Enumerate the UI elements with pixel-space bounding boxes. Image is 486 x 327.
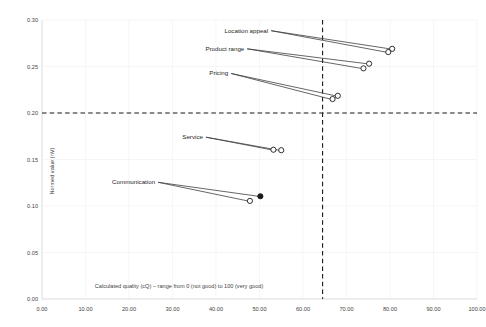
point-label: Pricing xyxy=(209,69,228,76)
data-marker-open xyxy=(247,198,252,203)
y-tick-label: 0.00 xyxy=(27,296,38,302)
y-axis-title: Normed value (nV) xyxy=(49,148,55,195)
x-tick-label: 10.00 xyxy=(79,306,93,312)
x-tick-label: 30.00 xyxy=(166,306,180,312)
point-label: Service xyxy=(182,133,203,140)
data-marker-open xyxy=(335,93,340,98)
data-marker-second xyxy=(258,194,263,199)
x-tick-label: 100.00 xyxy=(468,306,485,312)
x-tick-label: 60.00 xyxy=(296,306,310,312)
y-tick-label: 0.25 xyxy=(27,64,38,70)
data-marker-second xyxy=(386,49,391,54)
y-tick-label: 0.10 xyxy=(27,203,38,209)
x-tick-label: 80.00 xyxy=(383,306,397,312)
y-tick-label: 0.05 xyxy=(27,250,38,256)
x-tick-label: 90.00 xyxy=(427,306,441,312)
y-tick-label: 0.15 xyxy=(27,157,38,163)
x-tick-label: 40.00 xyxy=(209,306,223,312)
data-marker-open xyxy=(271,147,276,152)
y-tick-label: 0.30 xyxy=(27,17,38,23)
x-tick-label: 50.00 xyxy=(253,306,267,312)
x-tick-label: 20.00 xyxy=(122,306,136,312)
point-label: Product range xyxy=(205,45,244,52)
x-tick-label: 70.00 xyxy=(340,306,354,312)
data-marker-second xyxy=(361,66,366,71)
point-label: Communication xyxy=(112,178,156,185)
data-marker-open xyxy=(367,61,372,66)
data-marker-second xyxy=(330,96,335,101)
chart-canvas: 0.000.050.100.150.200.250.300.0010.0020.… xyxy=(0,0,486,327)
x-axis-title: Calculated quality (cQ) – range from 0 (… xyxy=(95,283,264,289)
data-marker-second xyxy=(279,148,284,153)
x-tick-label: 0.00 xyxy=(37,306,48,312)
point-label: Location appeal xyxy=(224,27,268,34)
y-tick-label: 0.20 xyxy=(27,110,38,116)
scatter-chart: 0.000.050.100.150.200.250.300.0010.0020.… xyxy=(0,0,486,327)
